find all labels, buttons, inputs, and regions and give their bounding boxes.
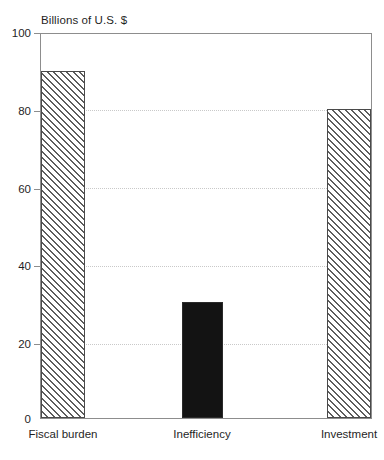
y-tick-label-100: 100: [0, 27, 31, 39]
plot-area: [40, 33, 372, 419]
x-tick-label-investment: Investment: [321, 427, 377, 441]
bar-fiscal-burden[interactable]: [41, 71, 85, 418]
x-tick-label-inefficiency: Inefficiency: [173, 427, 230, 441]
gridline-80: [41, 110, 371, 111]
chart-title: Billions of U.S. $: [41, 13, 127, 27]
y-tick-label-20: 20: [0, 338, 31, 350]
bar-chart: Billions of U.S. $ 100 80 60 40 20 0 Fis…: [0, 0, 384, 460]
bar-investment[interactable]: [327, 109, 371, 418]
y-tick-label-60: 60: [0, 183, 31, 195]
y-tick-label-80: 80: [0, 105, 31, 117]
bar-inefficiency[interactable]: [182, 302, 223, 418]
gridline-60: [41, 188, 371, 189]
x-tick-label-fiscal-burden: Fiscal burden: [28, 427, 97, 441]
gridline-40: [41, 266, 371, 267]
y-tick-label-0: 0: [0, 413, 31, 425]
y-tick-label-40: 40: [0, 260, 31, 272]
